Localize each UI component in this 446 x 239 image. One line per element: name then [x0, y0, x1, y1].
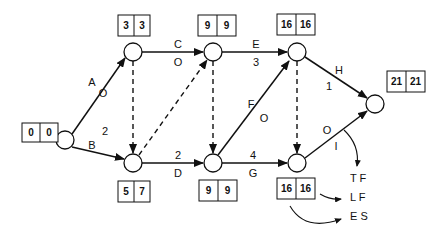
network-diagram: 0 0 3 3 9 9 16 16 21 21 5 7 9 9: [0, 0, 446, 239]
legend-early-start-pointer: [290, 206, 341, 223]
svg-text:0: 0: [28, 127, 34, 138]
activity-i-float: O: [323, 124, 332, 136]
activity-c-float: O: [174, 56, 183, 68]
legend-late-finish: L F: [350, 191, 366, 203]
activity-f-label: F: [248, 98, 255, 110]
legend-total-float-pointer: [344, 130, 357, 166]
node-1-times: 0 0: [22, 123, 58, 142]
node-2: [124, 43, 142, 61]
node-4: [288, 43, 306, 61]
svg-text:16: 16: [300, 19, 312, 30]
activity-b-label: B: [88, 139, 95, 151]
svg-text:21: 21: [391, 76, 403, 87]
activity-a-float: O: [99, 87, 108, 99]
node-6-times: 5 7: [118, 181, 150, 202]
node-7-times: 9 9: [199, 180, 237, 201]
activity-h-float: 1: [326, 80, 332, 92]
node-7: [204, 154, 222, 172]
node-6: [124, 154, 142, 172]
svg-text:5: 5: [123, 186, 129, 197]
svg-text:9: 9: [225, 185, 231, 196]
legend-total-float: T F: [350, 172, 367, 184]
svg-text:9: 9: [224, 20, 230, 31]
activity-d-float: 2: [175, 149, 181, 161]
svg-text:7: 7: [139, 186, 145, 197]
activity-b-float: 2: [102, 125, 108, 137]
svg-text:21: 21: [410, 76, 422, 87]
svg-text:16: 16: [300, 183, 312, 194]
node-5: [366, 95, 384, 113]
node-3-times: 9 9: [198, 15, 236, 36]
activity-i-label: I: [334, 140, 337, 152]
node-2-times: 3 3: [118, 15, 150, 36]
dummy-arrow-n6-n3: [139, 60, 207, 155]
svg-text:9: 9: [205, 20, 211, 31]
activity-b-arrow: [72, 147, 124, 159]
svg-text:3: 3: [123, 20, 129, 31]
svg-text:0: 0: [46, 127, 52, 138]
activity-e-label: E: [252, 38, 259, 50]
activity-e-float: 3: [253, 56, 259, 68]
activity-g-float: 4: [250, 149, 256, 161]
legend-early-start: E S: [350, 210, 368, 222]
node-1: [56, 131, 74, 149]
node-4-times: 16 16: [277, 14, 315, 35]
activity-a-label: A: [88, 76, 96, 88]
node-3: [204, 43, 222, 61]
activity-g-label: G: [249, 167, 258, 179]
svg-text:9: 9: [206, 185, 212, 196]
activity-c-label: C: [174, 38, 182, 50]
activity-d-label: D: [174, 167, 182, 179]
svg-text:3: 3: [139, 20, 145, 31]
node-5-times: 21 21: [387, 71, 425, 92]
node-8-times: 16 16: [277, 178, 315, 199]
activity-f-float: O: [260, 112, 269, 124]
svg-text:16: 16: [281, 19, 293, 30]
svg-text:16: 16: [281, 183, 293, 194]
legend-late-finish-pointer: [320, 194, 341, 199]
node-8: [288, 154, 306, 172]
activity-h-label: H: [335, 64, 343, 76]
